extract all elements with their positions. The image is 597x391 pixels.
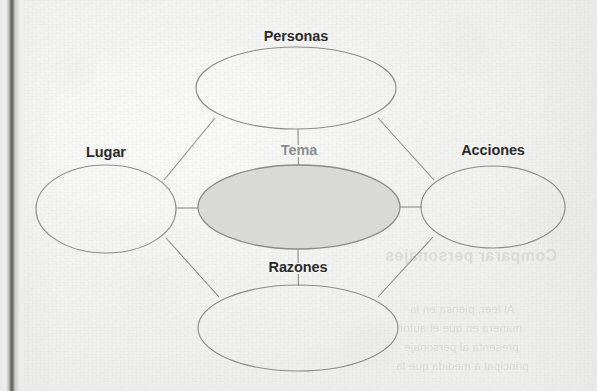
node-ellipse-razones[interactable] xyxy=(198,285,398,371)
scanned-page: Comparar personajes Al leer, piensa en l… xyxy=(0,0,597,391)
node-ellipse-lugar[interactable] xyxy=(36,165,176,253)
connector-lugar-razones xyxy=(166,238,219,297)
node-label-personas: Personas xyxy=(264,28,329,44)
concept-map-svg xyxy=(0,0,597,391)
node-ellipse-acciones[interactable] xyxy=(421,166,565,248)
node-ellipse-personas[interactable] xyxy=(196,47,396,129)
connector-personas-lugar xyxy=(164,118,215,180)
concept-map-diagram xyxy=(0,0,597,391)
node-ellipse-tema[interactable] xyxy=(198,165,400,249)
connector-acciones-razones xyxy=(378,237,433,297)
node-label-razones: Razones xyxy=(269,259,328,275)
node-label-acciones: Acciones xyxy=(461,142,525,158)
node-label-tema: Tema xyxy=(281,142,317,158)
node-label-lugar: Lugar xyxy=(86,144,126,160)
connector-personas-acciones xyxy=(378,118,434,180)
